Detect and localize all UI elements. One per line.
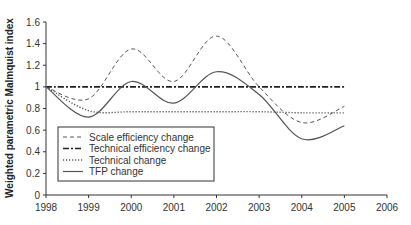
- x-tick-label: 2004: [291, 202, 314, 213]
- x-tick-label: 2002: [205, 202, 228, 213]
- series-lines: [46, 36, 344, 140]
- y-tick-label: 1.4: [26, 38, 40, 49]
- series-line: [46, 36, 344, 123]
- y-tick-label: 0.6: [26, 125, 40, 136]
- series-line: [46, 87, 344, 113]
- axes: 00.20.40.60.811.21.41.619981999200020012…: [26, 17, 398, 214]
- legend-label: Scale efficiency change: [89, 132, 194, 143]
- y-tick-label: 0.2: [26, 168, 40, 179]
- y-tick-label: 1.2: [26, 60, 40, 71]
- x-tick-label: 2005: [333, 202, 356, 213]
- legend-label: Technical efficiency change: [89, 143, 211, 154]
- x-tick-label: 2000: [120, 202, 143, 213]
- x-tick-label: 2001: [163, 202, 186, 213]
- x-tick-label: 1999: [78, 202, 101, 213]
- y-tick-label: 0: [34, 190, 40, 201]
- x-tick-label: 2006: [376, 202, 399, 213]
- x-tick-label: 2003: [248, 202, 271, 213]
- y-tick-label: 0.4: [26, 146, 40, 157]
- y-tick-label: 1.6: [26, 17, 40, 28]
- legend-label: TFP change: [89, 166, 144, 177]
- line-chart: 00.20.40.60.811.21.41.619981999200020012…: [0, 0, 411, 225]
- legend-label: Technical change: [89, 155, 167, 166]
- legend: Scale efficiency changeTechnical efficie…: [58, 127, 214, 181]
- x-tick-label: 1998: [35, 202, 58, 213]
- y-tick-label: 1: [34, 81, 40, 92]
- y-axis-label: Weighted parametric Malmquist index: [4, 18, 15, 198]
- y-tick-label: 0.8: [26, 103, 40, 114]
